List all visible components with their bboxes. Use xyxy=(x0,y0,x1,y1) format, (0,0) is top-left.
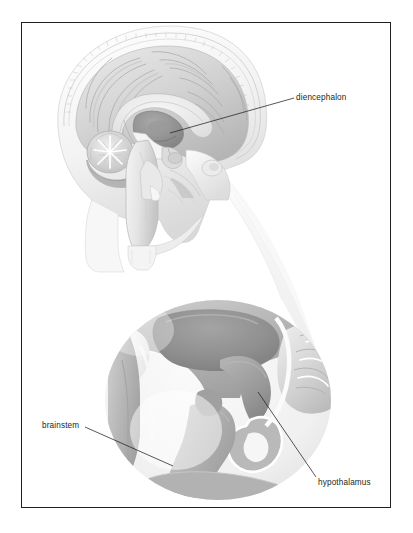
label-diencephalon: diencephalon xyxy=(296,93,347,102)
magnified-diencephalon-inset xyxy=(96,289,354,516)
label-hypothalamus: hypothalamus xyxy=(318,478,371,487)
midsagittal-head-section xyxy=(58,26,267,272)
figure-root: diencephalon brainstem hypothalamus xyxy=(0,0,413,533)
illustration-canvas xyxy=(0,0,413,533)
cerebellum xyxy=(87,131,133,173)
label-brainstem: brainstem xyxy=(42,421,79,430)
